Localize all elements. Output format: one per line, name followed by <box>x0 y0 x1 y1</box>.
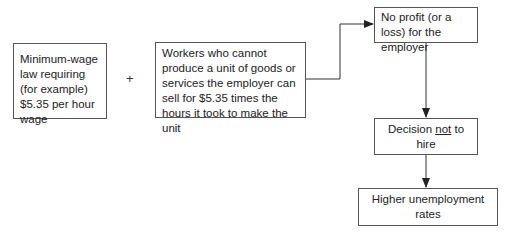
decision-prefix: Decision <box>388 123 435 135</box>
workers-box: Workers who cannot produce a unit of goo… <box>155 42 306 118</box>
no-profit-box: No profit (or a loss) for the employer <box>374 7 478 43</box>
minimum-wage-text: Minimum-wage law requiring (for example)… <box>20 53 98 125</box>
decision-box: Decision not to hire <box>374 118 478 155</box>
arrow-workers-to-no-profit <box>305 24 373 79</box>
decision-emphasis: not <box>435 123 451 135</box>
decision-text: Decision not to hire <box>381 122 471 152</box>
plus-operator: + <box>126 71 134 86</box>
minimum-wage-box: Minimum-wage law requiring (for example)… <box>13 43 107 119</box>
unemployment-box: Higher unemployment rates <box>358 188 498 226</box>
workers-text: Workers who cannot produce a unit of goo… <box>162 47 296 134</box>
unemployment-text: Higher unemployment rates <box>365 192 491 222</box>
